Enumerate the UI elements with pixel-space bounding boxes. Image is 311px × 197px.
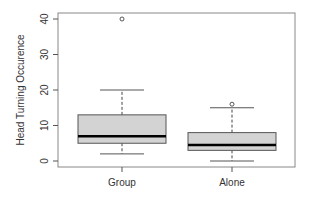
boxplot-chart: 010203040 GroupAlone Head Turning Occure… (0, 0, 311, 197)
boxes (78, 17, 276, 161)
y-axis: 010203040 (39, 13, 58, 164)
iqr-box (188, 133, 276, 151)
outlier-point (230, 102, 234, 106)
y-axis-title: Head Turning Occurence (15, 34, 26, 146)
x-axis: GroupAlone (108, 167, 245, 188)
y-tick-label: 10 (39, 120, 50, 132)
y-tick-label: 40 (39, 13, 50, 25)
y-tick-label: 30 (39, 49, 50, 61)
x-tick-label-group: Group (108, 177, 136, 188)
box-group (78, 17, 166, 154)
y-tick-label: 0 (39, 158, 50, 164)
y-tick-label: 20 (39, 84, 50, 96)
iqr-box (78, 115, 166, 143)
x-tick-label-alone: Alone (219, 177, 245, 188)
outlier-point (120, 17, 124, 21)
box-alone (188, 102, 276, 161)
